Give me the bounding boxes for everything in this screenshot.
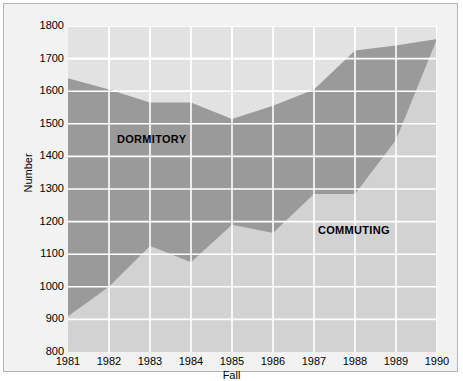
y-axis-tick-label: 1200: [26, 216, 64, 227]
y-axis-tick-label: 1800: [26, 20, 64, 31]
x-axis-tick-label: 1983: [130, 355, 170, 367]
x-axis-tick-label: 1986: [253, 355, 293, 367]
x-axis-tick-label: 1981: [48, 355, 88, 367]
stacked-area-chart: [68, 26, 437, 352]
y-axis-tick-label: 1500: [26, 118, 64, 129]
x-axis-tick-label: 1985: [212, 355, 252, 367]
y-axis-tick-label: 900: [26, 313, 64, 324]
plot-area: [68, 26, 437, 352]
y-axis-tick-label: 1000: [26, 281, 64, 292]
x-axis-tick-label: 1982: [89, 355, 129, 367]
x-axis-tick-label: 1987: [294, 355, 334, 367]
series-label-dormitory: DORMITORY: [117, 133, 186, 145]
x-axis-tick-label: 1988: [335, 355, 375, 367]
y-axis-tick-label: 1600: [26, 85, 64, 96]
x-axis-tick-label: 1984: [171, 355, 211, 367]
y-axis-tick-label: 1700: [26, 53, 64, 64]
x-axis-label: Fall: [0, 369, 463, 381]
x-axis-tick-label: 1989: [376, 355, 416, 367]
area-series-layer: [68, 39, 437, 352]
x-axis-tick-label: 1990: [417, 355, 457, 367]
chart-page: DORMITORY COMMUTING 18001700160015001400…: [0, 0, 463, 381]
series-label-commuting: COMMUTING: [318, 224, 390, 236]
y-axis-label: Number: [22, 143, 34, 203]
y-axis-tick-label: 1100: [26, 248, 64, 259]
